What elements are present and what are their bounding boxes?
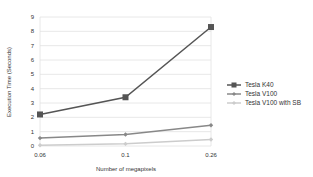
data-point	[208, 24, 214, 30]
data-point	[123, 142, 127, 146]
data-point	[123, 94, 129, 100]
legend-label: Tesla K40	[245, 81, 274, 88]
y-tick-label: 8	[31, 28, 35, 34]
legend-item: Tesla K40	[227, 81, 274, 88]
data-point	[38, 136, 42, 140]
y-tick-label: 4	[31, 86, 35, 92]
data-point	[209, 123, 213, 127]
legend-swatch-marker	[232, 92, 236, 96]
data-point	[37, 111, 43, 117]
y-tick-label: 0	[31, 143, 35, 149]
legend-item: Tesla V100 with SB	[227, 99, 301, 106]
legend-label: Tesla V100 with SB	[245, 99, 301, 106]
data-point	[38, 143, 42, 147]
grid	[40, 17, 211, 146]
x-axis-ticks: 0.060.10.26	[34, 152, 217, 158]
legend-swatch-marker	[232, 101, 236, 105]
data-point	[123, 132, 127, 136]
y-tick-label: 2	[31, 114, 35, 120]
y-tick-label: 6	[31, 57, 35, 63]
series-tesla-k40	[37, 24, 214, 117]
x-axis-label: Number of megapixels	[96, 166, 156, 172]
series	[37, 24, 214, 147]
legend: Tesla K40Tesla V100Tesla V100 with SB	[227, 81, 301, 106]
y-tick-label: 3	[31, 100, 35, 106]
y-tick-label: 7	[31, 43, 35, 49]
y-tick-label: 9	[31, 14, 35, 20]
data-point	[209, 137, 213, 141]
x-tick-label: 0.06	[34, 152, 46, 158]
legend-item: Tesla V100	[227, 90, 278, 97]
y-axis-label: Execution Time (Seconds)	[6, 47, 12, 117]
y-tick-label: 1	[31, 129, 35, 135]
x-tick-label: 0.26	[205, 152, 217, 158]
series-line	[40, 27, 211, 114]
x-tick-label: 0.1	[121, 152, 130, 158]
y-axis-ticks: 0123456789	[31, 14, 35, 149]
legend-swatch-marker	[232, 83, 237, 88]
y-tick-label: 5	[31, 71, 35, 77]
line-chart: 0123456789 0.060.10.26 Execution Time (S…	[0, 0, 313, 177]
legend-label: Tesla V100	[245, 90, 278, 97]
